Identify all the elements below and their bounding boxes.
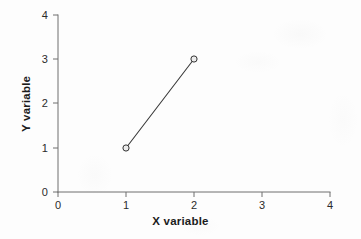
x-tick-label-1: 1	[123, 199, 129, 211]
y-tick-label-2: 2	[34, 97, 48, 109]
x-tick-label-2: 2	[191, 199, 197, 211]
y-tick-label-0: 0	[34, 186, 48, 198]
x-tick-label-3: 3	[259, 199, 265, 211]
x-tick-label-4: 4	[327, 199, 333, 211]
y-tick-label-1: 1	[34, 142, 48, 154]
y-axis-ticks	[53, 15, 58, 192]
y-tick-label-3: 3	[34, 53, 48, 65]
data-point-marker	[123, 145, 129, 151]
x-axis-title: X variable	[0, 215, 361, 227]
x-tick-label-0: 0	[55, 199, 61, 211]
y-tick-label-4: 4	[34, 9, 48, 21]
y-axis-title: Y variable	[20, 75, 32, 131]
data-point-marker	[191, 56, 197, 62]
y-axis-title-text: Y variable	[20, 75, 32, 131]
chart-figure: 0 1 2 3 4 0 1 2 3 4 X variable Y variabl…	[0, 0, 361, 239]
x-axis-ticks	[58, 192, 330, 197]
data-series-line	[126, 59, 194, 148]
